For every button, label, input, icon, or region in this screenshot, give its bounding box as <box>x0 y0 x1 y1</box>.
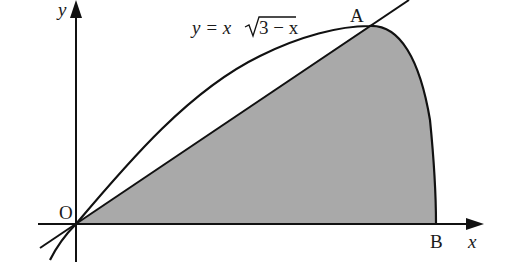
equation-lhs: y = x <box>190 17 232 38</box>
y-axis-label: y <box>56 0 67 20</box>
x-axis-arrow-icon <box>466 218 484 230</box>
point-b-label: B <box>430 231 443 252</box>
x-axis-label: x <box>467 231 477 252</box>
shaded-region <box>76 26 436 224</box>
diagram: y x O A B y = x 3 − x <box>0 0 506 268</box>
y-axis-arrow-icon <box>70 0 82 18</box>
equation-radicand: 3 − x <box>259 17 299 38</box>
origin-label: O <box>59 202 73 223</box>
point-a-label: A <box>350 5 364 26</box>
equation-label: y = x 3 − x <box>190 17 299 38</box>
